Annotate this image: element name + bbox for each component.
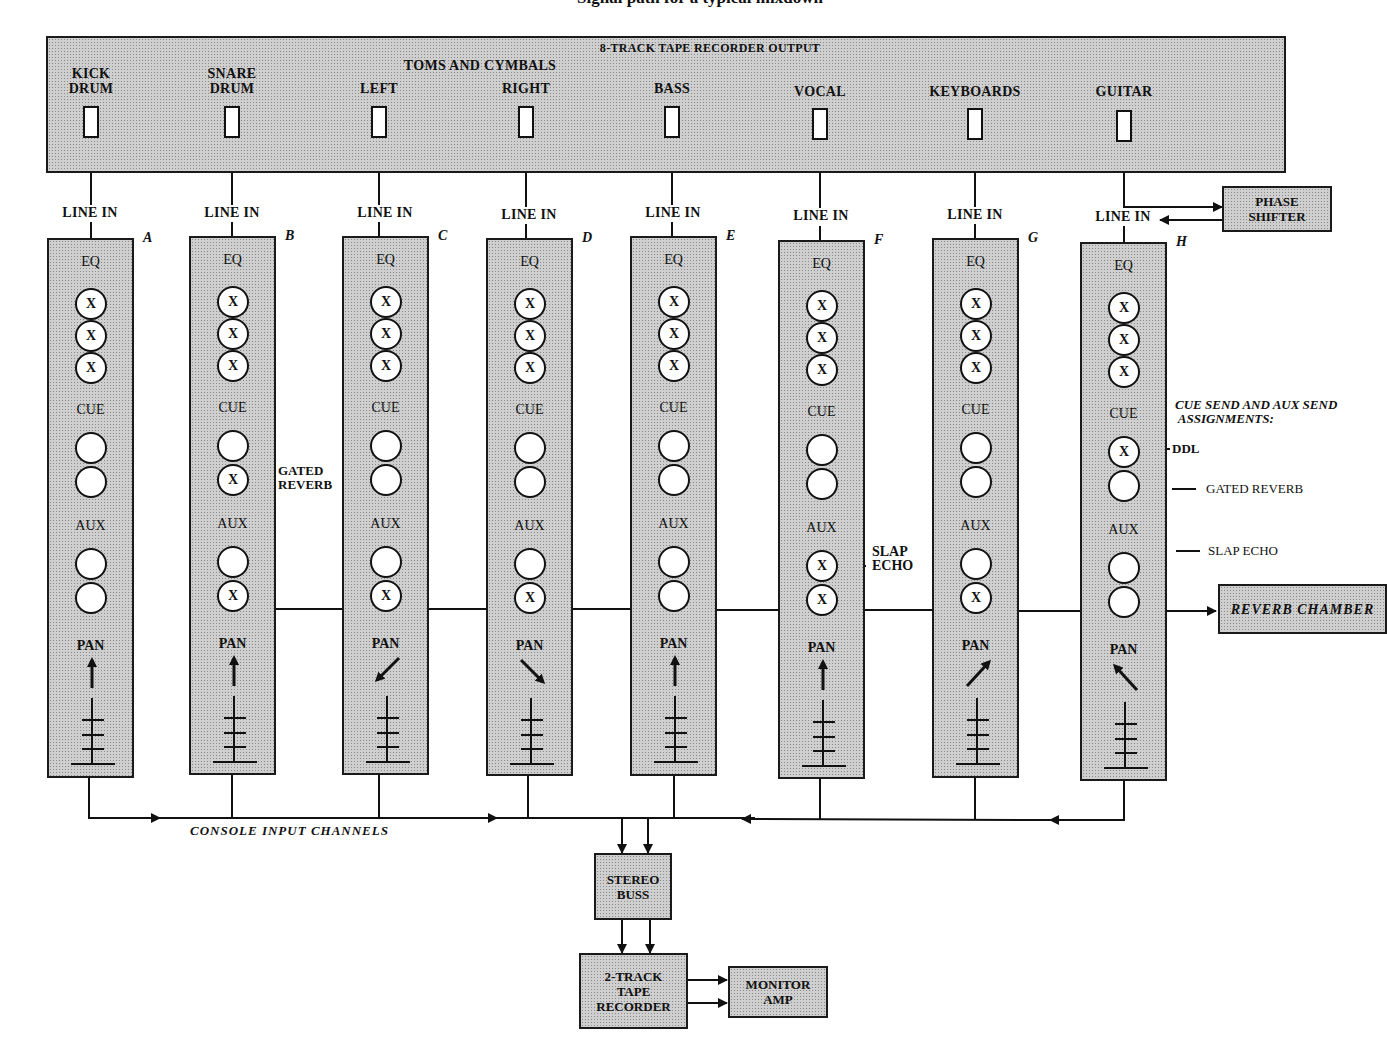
cue-send-knob[interactable]	[1108, 470, 1140, 502]
aux-send-knob[interactable]: X	[370, 580, 402, 612]
aux-send-knob[interactable]: X	[960, 582, 992, 614]
eq-knob[interactable]: X	[370, 318, 402, 350]
cue-send-knob[interactable]	[806, 468, 838, 500]
cue-send-knob[interactable]: X	[1108, 436, 1140, 468]
aux-label: AUX	[488, 518, 571, 534]
eq-knob[interactable]: X	[514, 352, 546, 384]
channel-strip-d: EQXXXCUEAUXXPAN	[486, 238, 573, 776]
eq-knob[interactable]: X	[658, 350, 690, 382]
cue-send-knob[interactable]	[75, 466, 107, 498]
fader-icon	[654, 696, 698, 762]
cue-send-knob[interactable]	[75, 432, 107, 464]
cue-label: CUE	[1082, 406, 1165, 422]
track-label: KICK DRUM	[26, 66, 156, 96]
eq-knob[interactable]: X	[658, 318, 690, 350]
aux-label: AUX	[344, 516, 427, 532]
pan-and-fader[interactable]	[344, 646, 431, 776]
cue-send-knob[interactable]	[658, 430, 690, 462]
pan-arrow-icon	[632, 646, 719, 776]
eq-knob[interactable]: X	[960, 320, 992, 352]
eq-knob[interactable]: X	[370, 350, 402, 382]
gated-reverb-label: GATED REVERB	[278, 464, 332, 492]
pan-and-fader[interactable]	[632, 646, 719, 776]
aux-label: AUX	[780, 520, 863, 536]
tape-recorder-title: 8-TRACK TAPE RECORDER OUTPUT	[530, 41, 890, 55]
cue-send-knob[interactable]	[806, 434, 838, 466]
eq-label: EQ	[934, 254, 1017, 270]
stereo-buss-box: STEREO BUSS	[594, 853, 672, 920]
pan-arrow-icon	[488, 648, 575, 778]
cue-send-knob[interactable]	[370, 464, 402, 496]
aux-send-knob[interactable]	[75, 548, 107, 580]
track-output-port	[664, 106, 680, 138]
cue-send-knob[interactable]	[514, 432, 546, 464]
channel-letter: A	[143, 230, 152, 246]
cue-send-knob[interactable]	[960, 432, 992, 464]
aux-label: AUX	[934, 518, 1017, 534]
fader-icon	[1104, 702, 1148, 768]
cue-send-knob[interactable]	[514, 466, 546, 498]
pan-and-fader[interactable]	[488, 648, 575, 778]
eq-label: EQ	[344, 252, 427, 268]
eq-knob[interactable]: X	[75, 288, 107, 320]
line-in-label: LINE IN	[771, 209, 871, 223]
track-label: SNARE DRUM	[167, 66, 297, 96]
pan-and-fader[interactable]	[934, 648, 1021, 778]
aux-send-knob[interactable]	[658, 546, 690, 578]
cue-send-knob[interactable]	[370, 430, 402, 462]
aux-send-knob[interactable]: X	[514, 582, 546, 614]
eq-knob[interactable]: X	[75, 320, 107, 352]
aux-send-knob[interactable]: X	[217, 580, 249, 612]
eq-knob[interactable]: X	[75, 352, 107, 384]
pan-and-fader[interactable]	[1082, 652, 1169, 782]
cue-label: CUE	[780, 404, 863, 420]
pan-and-fader[interactable]	[780, 650, 867, 780]
aux-send-knob[interactable]	[217, 546, 249, 578]
eq-knob[interactable]: X	[960, 352, 992, 384]
aux-send-knob[interactable]: X	[806, 584, 838, 616]
aux-send-knob[interactable]	[370, 546, 402, 578]
pan-arrow-icon	[344, 646, 431, 776]
fader-icon	[366, 696, 410, 762]
channel-letter: B	[285, 228, 294, 244]
track-output-port	[812, 108, 828, 140]
cue-send-knob[interactable]: X	[217, 464, 249, 496]
eq-knob[interactable]: X	[217, 286, 249, 318]
eq-knob[interactable]: X	[217, 350, 249, 382]
fader-icon	[71, 698, 115, 764]
cue-send-knob[interactable]	[960, 466, 992, 498]
cue-label: CUE	[49, 402, 132, 418]
aux-send-knob[interactable]	[658, 580, 690, 612]
pan-and-fader[interactable]	[49, 648, 136, 778]
pan-and-fader[interactable]	[191, 646, 278, 776]
eq-knob[interactable]: X	[514, 320, 546, 352]
eq-knob[interactable]: X	[806, 354, 838, 386]
channel-letter: E	[726, 228, 735, 244]
fader-icon	[510, 698, 554, 764]
pan-arrow-icon	[934, 648, 1021, 778]
eq-knob[interactable]: X	[1108, 292, 1140, 324]
eq-knob[interactable]: X	[217, 318, 249, 350]
eq-knob[interactable]: X	[658, 286, 690, 318]
line-in-label: LINE IN	[40, 206, 140, 220]
eq-knob[interactable]: X	[1108, 356, 1140, 388]
cue-label: CUE	[488, 402, 571, 418]
aux-send-knob[interactable]	[1108, 552, 1140, 584]
aux-send-knob[interactable]	[514, 548, 546, 580]
line-in-label: LINE IN	[182, 206, 282, 220]
eq-knob[interactable]: X	[1108, 324, 1140, 356]
channel-letter: G	[1028, 230, 1038, 246]
eq-knob[interactable]: X	[960, 288, 992, 320]
aux-send-knob[interactable]	[1108, 586, 1140, 618]
eq-label: EQ	[49, 254, 132, 270]
eq-knob[interactable]: X	[806, 322, 838, 354]
eq-knob[interactable]: X	[806, 290, 838, 322]
aux-send-knob[interactable]: X	[806, 550, 838, 582]
cue-send-knob[interactable]	[658, 464, 690, 496]
aux-send-knob[interactable]	[960, 548, 992, 580]
channel-strip-h: EQXXXCUEXAUXPAN	[1080, 242, 1167, 781]
eq-knob[interactable]: X	[370, 286, 402, 318]
cue-send-knob[interactable]	[217, 430, 249, 462]
eq-knob[interactable]: X	[514, 288, 546, 320]
aux-send-knob[interactable]	[75, 582, 107, 614]
